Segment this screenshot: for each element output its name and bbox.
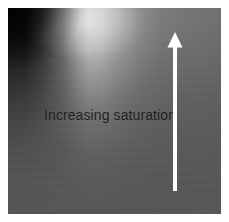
saturation-gradient-figure: Increasing saturation [0,0,229,222]
increasing-saturation-label: Increasing saturation [44,107,176,123]
